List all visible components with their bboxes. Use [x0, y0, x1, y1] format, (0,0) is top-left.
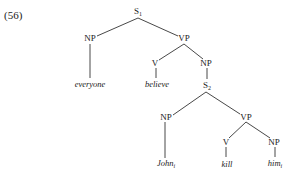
node-label: VP [240, 112, 252, 122]
node-v1: V [152, 59, 159, 68]
node-np2: NP [200, 59, 212, 68]
terminal-believe: believe [145, 80, 169, 89]
node-label: believe [145, 79, 169, 89]
node-label: V [152, 58, 159, 68]
tree-edge-s1-np1 [97, 18, 138, 36]
node-subscript: i [173, 163, 175, 169]
terminal-john: Johni [157, 159, 175, 169]
node-np1: NP [84, 34, 96, 43]
node-label: V [223, 137, 230, 147]
node-subscript: 2 [208, 85, 211, 91]
tree-edge-vp2-v2 [229, 122, 246, 138]
node-label: John [157, 158, 174, 168]
tree-edge-vp1-v1 [159, 44, 184, 60]
node-label: NP [268, 137, 280, 147]
node-subscript: 1 [139, 11, 142, 17]
node-label: NP [84, 33, 96, 43]
node-subscript: i [281, 163, 283, 169]
terminal-him: himi [268, 159, 282, 169]
tree-edge-s2-vp2 [206, 92, 240, 114]
node-vp2: VP [240, 113, 252, 122]
node-label: NP [200, 58, 212, 68]
node-label: NP [160, 112, 172, 122]
node-label: everyone [75, 79, 106, 89]
node-label: VP [178, 33, 190, 43]
node-label: kill [222, 159, 233, 169]
node-v2: V [223, 138, 230, 147]
node-label: him [268, 158, 281, 168]
node-s2: S2 [203, 81, 211, 91]
tree-edge-vp2-np4 [246, 122, 270, 138]
node-s1: S1 [134, 7, 142, 17]
node-np3: NP [160, 113, 172, 122]
node-vp1: VP [178, 34, 190, 43]
tree-edge-s2-np3 [173, 92, 206, 115]
node-np4: NP [268, 138, 280, 147]
terminal-kill: kill [222, 160, 233, 169]
tree-edge-s1-vp1 [138, 18, 178, 36]
terminal-everyone: everyone [75, 80, 106, 89]
